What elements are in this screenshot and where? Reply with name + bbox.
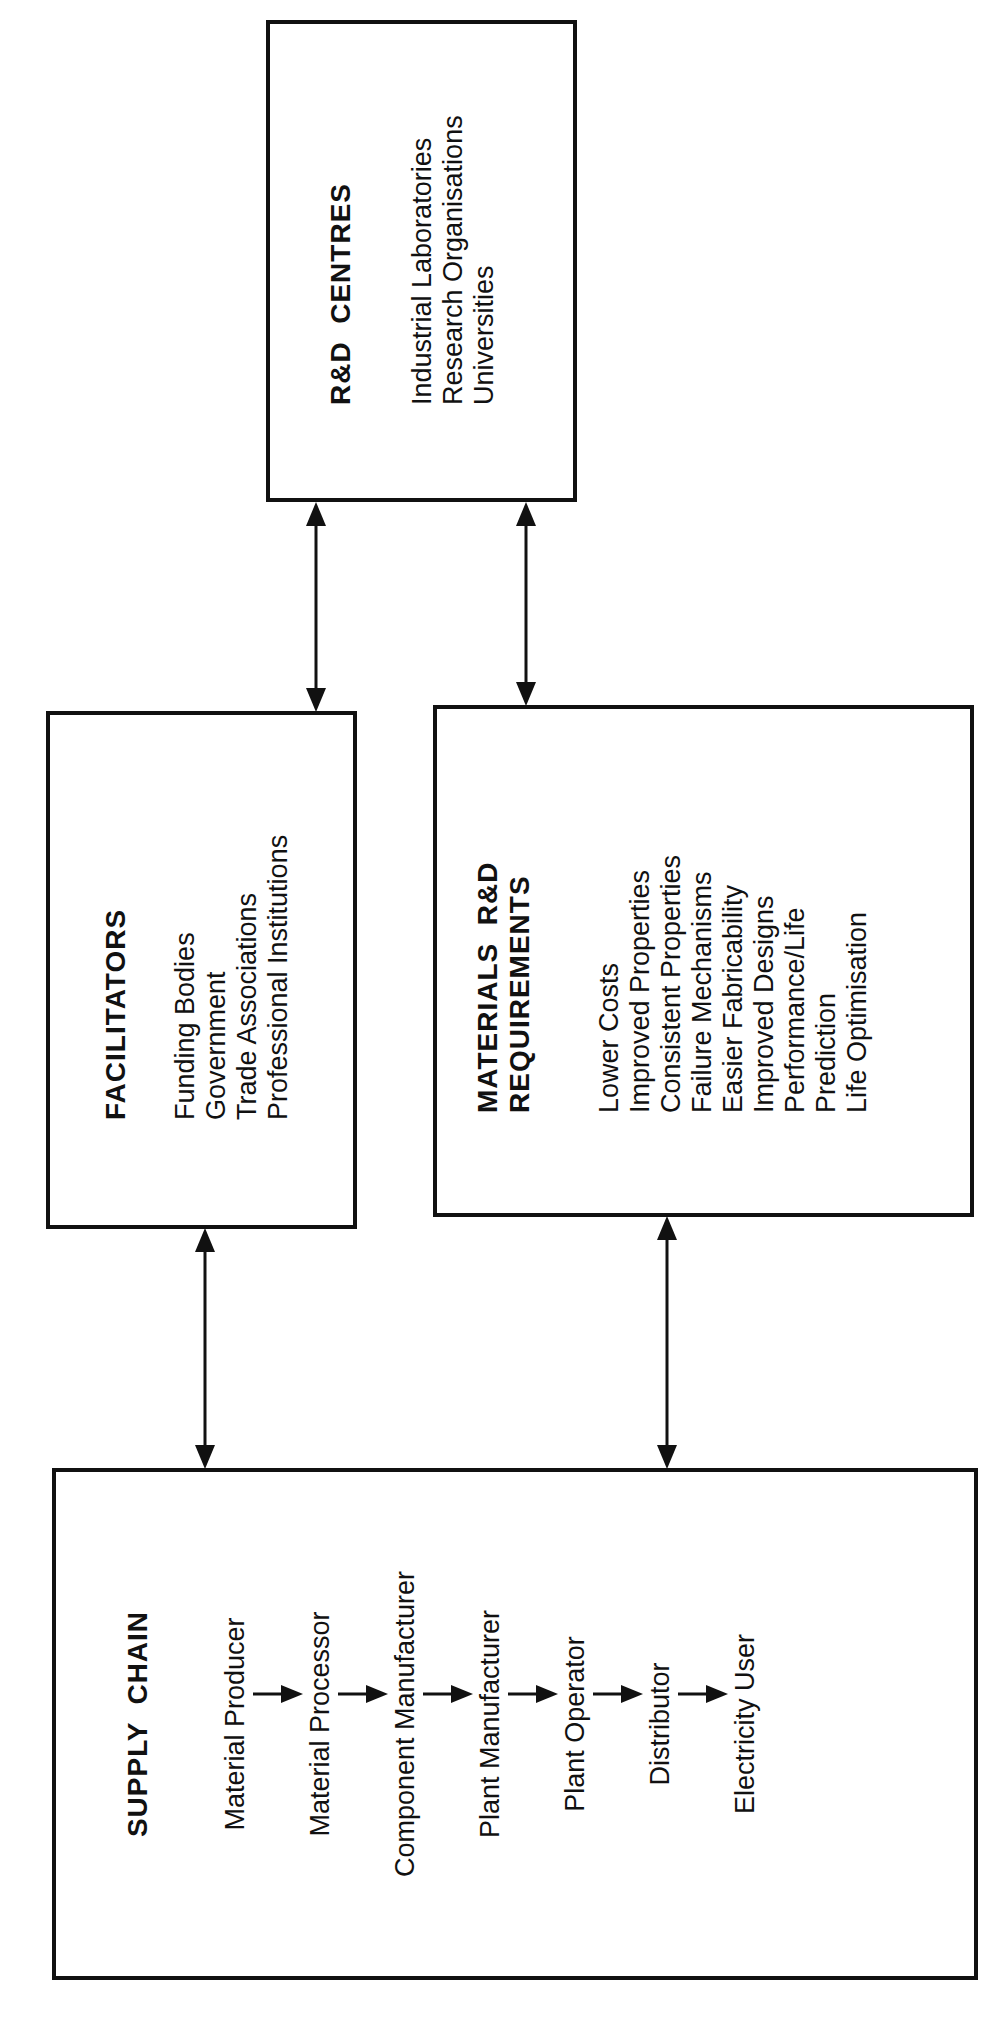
supply-chain-step: Electricity User xyxy=(730,1634,761,1814)
rd-centres-title: R&D CENTRES xyxy=(325,115,357,405)
supply-chain-step: Plant Operator xyxy=(560,1636,591,1812)
flow-arrow-icon xyxy=(336,1684,390,1704)
materials-title-line2: REQUIREMENTS xyxy=(504,855,536,1113)
supply-chain-step: Material Producer xyxy=(220,1617,251,1830)
flow-arrow-icon xyxy=(676,1684,730,1704)
supply-chain-box: SUPPLY CHAIN Material Producer Material … xyxy=(52,1468,978,1980)
facilitators-item: Trade Associations xyxy=(232,835,263,1120)
materials-item: Improved Properties xyxy=(625,855,656,1113)
supply-chain-step: Distributor xyxy=(645,1662,676,1785)
flow-arrow-icon xyxy=(251,1684,305,1704)
supply-chain-step: Material Processor xyxy=(305,1611,336,1836)
flow-arrow-icon xyxy=(591,1684,645,1704)
flow-arrow-icon xyxy=(421,1684,475,1704)
materials-item: Prediction xyxy=(811,855,842,1113)
rd-centres-item: Universities xyxy=(469,115,500,405)
materials-item: Improved Designs xyxy=(749,855,780,1113)
supply-chain-step: Plant Manufacturer xyxy=(475,1610,506,1838)
materials-requirements-box: MATERIALS R&D REQUIREMENTS Lower Costs I… xyxy=(433,705,974,1217)
facilitators-title: FACILITATORS xyxy=(100,835,132,1120)
rd-centres-item: Industrial Laboratories xyxy=(407,115,438,405)
facilitators-item: Professional Institutions xyxy=(263,835,294,1120)
materials-item: Performance/Life xyxy=(780,855,811,1113)
materials-title-line1: MATERIALS R&D xyxy=(472,855,504,1113)
supply-chain-title: SUPPLY CHAIN xyxy=(122,1468,154,1980)
materials-item: Failure Mechanisms xyxy=(687,855,718,1113)
materials-item: Life Optimisation xyxy=(842,855,873,1113)
facilitators-item: Funding Bodies xyxy=(170,835,201,1120)
rd-centres-box: R&D CENTRES Industrial Laboratories Rese… xyxy=(266,20,577,502)
facilitators-item: Government xyxy=(201,835,232,1120)
supply-chain-step: Component Manufacturer xyxy=(390,1571,421,1877)
materials-item: Consistent Properties xyxy=(656,855,687,1113)
flow-arrow-icon xyxy=(506,1684,560,1704)
rd-centres-item: Research Organisations xyxy=(438,115,469,405)
materials-item: Lower Costs xyxy=(594,855,625,1113)
facilitators-box: FACILITATORS Funding Bodies Government T… xyxy=(46,711,357,1229)
materials-item: Easier Fabricability xyxy=(718,855,749,1113)
